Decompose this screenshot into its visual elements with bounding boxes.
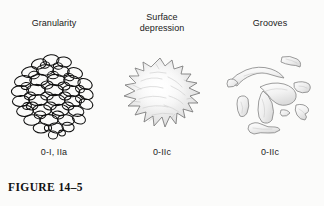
panel-caption-granularity: 0-I, IIa xyxy=(41,147,67,158)
panel-row: Granularity xyxy=(0,0,324,180)
panel-granularity: Granularity xyxy=(0,0,108,180)
grooves-irregular-bands-icon xyxy=(220,49,320,145)
figure-plate: Granularity xyxy=(0,0,324,206)
panel-surface-depression: Surface depression xyxy=(108,0,216,180)
panel-grooves: Grooves xyxy=(216,0,324,180)
figure-label: FIGURE 14–5 xyxy=(8,181,83,193)
granularity-cluster-of-granules-icon xyxy=(4,49,104,145)
panel-caption-grooves: 0-IIc xyxy=(261,147,279,158)
panel-title-surface-depression: Surface depression xyxy=(140,12,185,36)
panel-title-granularity: Granularity xyxy=(32,18,77,42)
surface-depression-jagged-blob-icon xyxy=(112,49,212,145)
panel-title-grooves: Grooves xyxy=(253,18,287,42)
panel-caption-surface-depression: 0-IIc xyxy=(153,147,171,158)
